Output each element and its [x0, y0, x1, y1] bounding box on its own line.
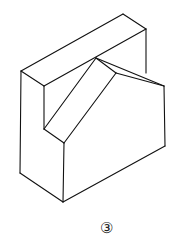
slant-face-back-edge	[44, 58, 96, 129]
slant-face-front-edge	[64, 73, 116, 143]
left-outer-vertical	[20, 71, 21, 173]
front-vertical	[63, 143, 64, 202]
right-vertical	[164, 86, 165, 146]
chamfer-back-edge	[96, 58, 164, 86]
figure-number-label: ③	[96, 218, 116, 238]
chamfer-front-edge	[116, 73, 164, 86]
back-slab-top-back-edge	[123, 14, 146, 29]
back-slab-top-side-edge	[21, 71, 44, 86]
slant-face-bottom-edge	[44, 129, 64, 143]
isometric-block-drawing	[0, 0, 184, 240]
bottom-right-edge	[63, 146, 165, 202]
bottom-left-edge	[20, 173, 63, 202]
